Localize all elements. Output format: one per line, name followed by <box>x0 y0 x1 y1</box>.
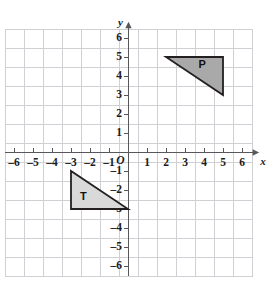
x-axis-tick-label: 6 <box>239 156 245 168</box>
y-axis-tick-label: 4 <box>116 69 122 81</box>
shape-p: P <box>166 57 223 95</box>
x-axis-tick-label: –2 <box>83 156 96 168</box>
x-axis-tick-label: 4 <box>201 156 207 168</box>
origin-label: O <box>116 154 124 166</box>
y-axis-tick-label: –4 <box>110 221 123 233</box>
x-axis-tick-label: –3 <box>64 156 77 168</box>
y-axis-tick-label: 1 <box>116 126 122 138</box>
x-axis-tick-label: –5 <box>26 156 39 168</box>
y-axis-label: y <box>116 16 123 28</box>
y-axis-tick-label: 2 <box>116 107 122 119</box>
x-axis-arrowhead <box>253 149 260 155</box>
shape-p-label: P <box>198 58 205 70</box>
x-axis-tick-label: 2 <box>163 156 169 168</box>
y-axis-tick-label: –5 <box>110 240 123 252</box>
y-axis-tick-label: 3 <box>116 88 122 100</box>
x-axis-tick-label: –4 <box>45 156 58 168</box>
x-axis-label: x <box>259 155 266 167</box>
plotted-shapes: PT <box>71 57 223 209</box>
shape-t-label: T <box>80 190 87 202</box>
y-axis-tick-label: 5 <box>116 50 122 62</box>
x-axis-tick-label: 5 <box>220 156 226 168</box>
x-axis-tick-label: 1 <box>144 156 150 168</box>
x-axis-tick-label: –6 <box>7 156 20 168</box>
y-axis-tick-label: –2 <box>110 183 123 195</box>
y-axis-tick-label: 6 <box>116 31 122 43</box>
coordinate-plane-figure: –6–5–4–3–2–1123456–6–5–4–3–2–1123456 Oxy… <box>0 0 278 282</box>
y-axis-arrowhead <box>125 22 131 29</box>
x-axis-tick-label: 3 <box>182 156 188 168</box>
shape-p-polygon <box>166 57 223 95</box>
coordinate-plane-svg: –6–5–4–3–2–1123456–6–5–4–3–2–1123456 Oxy… <box>0 0 278 282</box>
y-axis-tick-label: –6 <box>110 259 123 271</box>
